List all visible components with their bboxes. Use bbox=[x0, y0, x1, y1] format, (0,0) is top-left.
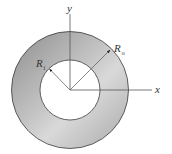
y-axis-label: y bbox=[66, 2, 72, 14]
outer-radius-label: R o bbox=[113, 42, 125, 56]
svg-text:o: o bbox=[122, 49, 125, 56]
svg-text:R: R bbox=[113, 42, 121, 54]
x-axis-label: x bbox=[154, 83, 160, 95]
svg-text:R: R bbox=[35, 57, 43, 69]
annulus-diagram: y x R i R o bbox=[0, 0, 172, 154]
svg-text:i: i bbox=[44, 64, 46, 71]
